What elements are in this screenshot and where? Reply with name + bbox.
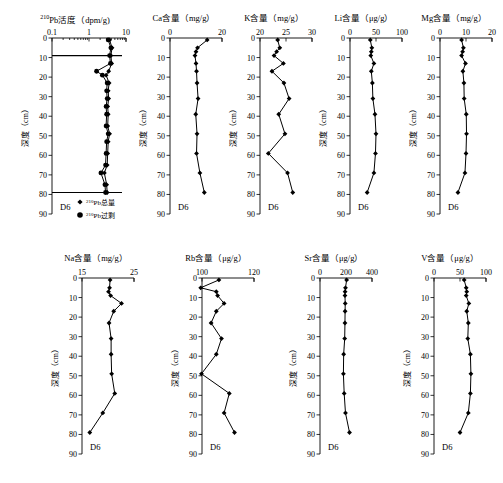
svg-text:深度（cm）: 深度（cm） (288, 345, 298, 387)
svg-text:0: 0 (311, 274, 315, 283)
svg-text:0: 0 (341, 34, 345, 43)
svg-text:25: 25 (282, 28, 290, 37)
svg-text:40: 40 (189, 352, 197, 361)
svg-text:60: 60 (189, 391, 197, 400)
svg-text:30: 30 (189, 333, 197, 342)
panel-k: K含量（mg/g） 2025300102030405060708090深度（cm… (226, 14, 322, 229)
panel-title-rb: Rb含量（μg/g） (168, 254, 264, 263)
svg-text:深度（cm）: 深度（cm） (228, 105, 238, 147)
svg-text:0: 0 (168, 28, 172, 37)
svg-text:90: 90 (307, 450, 315, 459)
svg-text:0: 0 (73, 274, 77, 283)
svg-text:50: 50 (307, 372, 315, 381)
panel-title-mg: Mg含量（mg/g） (406, 14, 502, 23)
svg-text:30: 30 (247, 93, 255, 102)
svg-text:10: 10 (69, 294, 77, 303)
svg-text:50: 50 (189, 372, 197, 381)
svg-text:120: 120 (248, 268, 260, 277)
svg-text:20: 20 (427, 73, 435, 82)
svg-text:D6: D6 (210, 442, 220, 452)
svg-text:10: 10 (427, 54, 435, 63)
svg-text:30: 30 (157, 93, 165, 102)
svg-text:70: 70 (39, 171, 47, 180)
panel-title-na: Na含量（mg/g） (48, 254, 144, 263)
svg-text:0: 0 (425, 274, 429, 283)
svg-text:深度（cm）: 深度（cm） (20, 105, 30, 147)
svg-text:50: 50 (337, 132, 345, 141)
panel-li: Li含量（μg/g） 0501000102030405060708090深度（c… (316, 14, 412, 229)
panel-title-ca: Ca含量（mg/g） (136, 14, 232, 23)
panel-title-li: Li含量（μg/g） (316, 14, 412, 23)
svg-text:10: 10 (307, 294, 315, 303)
panel-title-k: K含量（mg/g） (226, 14, 322, 23)
svg-text:深度（cm）: 深度（cm） (318, 105, 328, 147)
svg-text:0: 0 (431, 34, 435, 43)
svg-text:30: 30 (427, 93, 435, 102)
svg-text:90: 90 (69, 450, 77, 459)
panel-na: Na含量（mg/g） 15250102030405060708090深度（cm）… (48, 254, 144, 469)
svg-text:80: 80 (307, 430, 315, 439)
svg-text:40: 40 (307, 352, 315, 361)
svg-text:100: 100 (196, 268, 208, 277)
svg-text:40: 40 (157, 112, 165, 121)
svg-text:20: 20 (337, 73, 345, 82)
svg-text:50: 50 (69, 372, 77, 381)
svg-text:0: 0 (251, 34, 255, 43)
svg-text:80: 80 (189, 430, 197, 439)
svg-text:80: 80 (337, 190, 345, 199)
svg-text:0.1: 0.1 (47, 28, 57, 37)
svg-text:80: 80 (39, 190, 47, 199)
panel-rb: Rb含量（μg/g） 1001200102030405060708090深度（c… (168, 254, 264, 469)
svg-text:深度（cm）: 深度（cm） (408, 105, 418, 147)
panel-sr: Sr含量（μg/g） 02004000102030405060708090深度（… (286, 254, 382, 469)
svg-text:90: 90 (39, 210, 47, 219)
legend-marker-diamond (77, 199, 82, 204)
svg-text:40: 40 (69, 352, 77, 361)
legend-label-excess: 210Pb过剩 (86, 211, 115, 220)
svg-text:40: 40 (427, 112, 435, 121)
svg-text:30: 30 (69, 333, 77, 342)
svg-text:10: 10 (247, 54, 255, 63)
svg-text:90: 90 (421, 450, 429, 459)
svg-text:80: 80 (427, 190, 435, 199)
svg-text:80: 80 (69, 430, 77, 439)
svg-text:D6: D6 (442, 442, 452, 452)
panel-pb210: 210Pb活度（dpm/g) 0.11100102030405060708090… (14, 14, 136, 229)
svg-text:30: 30 (337, 93, 345, 102)
figure-root: 210Pb活度（dpm/g) 0.11100102030405060708090… (0, 0, 503, 483)
plot-v: 0501000102030405060708090深度（cm）D6 (400, 264, 500, 469)
svg-text:20: 20 (307, 313, 315, 322)
plot-ca: 0200102030405060708090深度（cm）D6 (136, 24, 232, 229)
svg-text:D6: D6 (358, 202, 368, 212)
panel-title-v: V含量（μg/g） (400, 254, 500, 263)
svg-text:10: 10 (337, 54, 345, 63)
svg-text:10: 10 (421, 294, 429, 303)
svg-text:80: 80 (421, 430, 429, 439)
svg-text:30: 30 (307, 333, 315, 342)
svg-text:20: 20 (247, 73, 255, 82)
svg-text:25: 25 (130, 268, 138, 277)
svg-text:10: 10 (39, 54, 47, 63)
svg-text:70: 70 (189, 411, 197, 420)
svg-text:70: 70 (421, 411, 429, 420)
svg-text:D6: D6 (178, 202, 188, 212)
svg-text:D6: D6 (448, 202, 458, 212)
svg-text:20: 20 (218, 28, 226, 37)
svg-text:0: 0 (432, 268, 436, 277)
svg-text:70: 70 (157, 171, 165, 180)
legend-marker-circle (77, 212, 83, 218)
svg-text:20: 20 (256, 28, 264, 37)
svg-text:15: 15 (78, 268, 86, 277)
svg-text:10: 10 (189, 294, 197, 303)
svg-text:20: 20 (39, 73, 47, 82)
svg-text:10: 10 (462, 28, 470, 37)
svg-text:90: 90 (157, 210, 165, 219)
svg-text:60: 60 (39, 151, 47, 160)
svg-text:20: 20 (157, 73, 165, 82)
svg-text:0: 0 (43, 34, 47, 43)
svg-text:0: 0 (438, 28, 442, 37)
plot-rb: 1001200102030405060708090深度（cm）D6 (168, 264, 264, 469)
svg-text:60: 60 (157, 151, 165, 160)
svg-text:0: 0 (161, 34, 165, 43)
svg-text:80: 80 (247, 190, 255, 199)
